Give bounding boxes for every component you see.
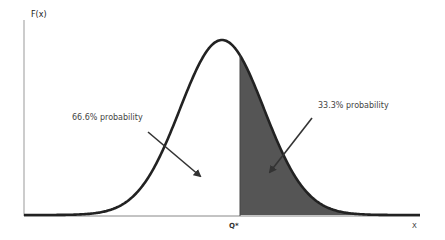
right-probability-annotation: 33.3% probability: [318, 101, 389, 110]
left-annotation-arrow: [148, 132, 200, 176]
normal-distribution-chart: [0, 0, 445, 240]
bell-curve: [24, 40, 420, 215]
x-axis-label: X: [412, 222, 417, 230]
q-star-label: Q*: [229, 222, 239, 230]
y-axis-label: F(x): [31, 10, 47, 19]
shaded-tail-region: [240, 55, 420, 215]
left-probability-annotation: 66.6% probability: [72, 113, 143, 122]
